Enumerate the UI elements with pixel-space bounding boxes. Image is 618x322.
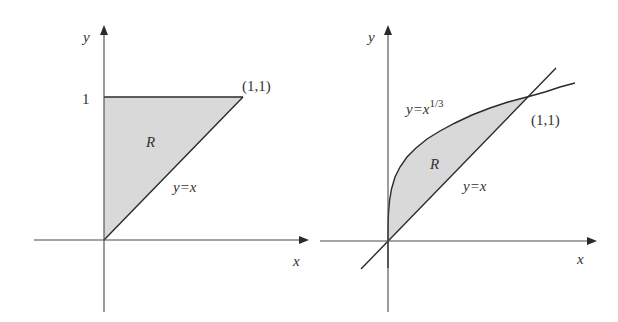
right-curve-label-base: y=x — [404, 101, 430, 117]
left-y-axis-arrow-icon — [100, 25, 108, 35]
right-panel: y x (1,1) R y=x y=x1/3 — [320, 25, 597, 312]
left-region-label: R — [145, 134, 155, 150]
right-line-label: y=x — [461, 178, 487, 194]
right-point-label: (1,1) — [531, 112, 560, 129]
right-region-label: R — [429, 156, 439, 172]
right-curve-label-exponent: 1/3 — [429, 97, 444, 109]
left-point-label: (1,1) — [242, 78, 271, 95]
double-integration-region-figure: y x 1 (1,1) R y=x y x (1,1) R y=x y=x1/3 — [0, 0, 618, 322]
left-line-label: y=x — [171, 179, 197, 195]
right-x-axis-arrow-icon — [587, 237, 597, 245]
right-y-axis-label: y — [366, 29, 375, 45]
left-y-axis-label: y — [81, 29, 90, 45]
right-line-y-equals-x — [361, 68, 556, 269]
right-y-axis-arrow-icon — [384, 25, 392, 35]
left-x-axis-arrow-icon — [299, 236, 309, 244]
right-x-axis-label: x — [576, 251, 584, 267]
right-curve-label: y=x1/3 — [404, 97, 444, 117]
left-x-axis-label: x — [292, 253, 300, 269]
left-panel: y x 1 (1,1) R y=x — [34, 25, 309, 312]
left-y-tick-1: 1 — [82, 91, 90, 107]
